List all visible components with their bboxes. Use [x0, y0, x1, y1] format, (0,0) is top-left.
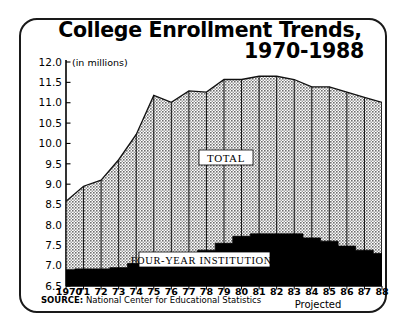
y-tick-label: 10.5: [39, 117, 62, 129]
y-axis-tick-labels: 6.57.07.58.08.59.09.510.010.511.011.512.…: [39, 56, 62, 292]
y-tick-label: 12.0: [39, 56, 62, 68]
projected-label: Projected: [295, 299, 342, 310]
y-tick-label: 8.0: [45, 219, 62, 231]
y-tick-label: 11.0: [39, 96, 62, 108]
chart-canvas: 6.57.07.58.08.59.09.510.010.511.011.512.…: [0, 0, 408, 329]
y-tick-label: 9.5: [45, 158, 62, 170]
y-tick-label: 10.0: [39, 137, 62, 149]
y-tick-label: 7.5: [45, 239, 62, 251]
units-note: (in millions): [72, 57, 128, 68]
four-year-series-label: FOUR-YEAR INSTITUTIONS: [131, 252, 279, 267]
y-tick-label: 9.0: [45, 178, 62, 190]
y-tick-label: 8.5: [45, 198, 62, 210]
enrollment-area-chart: 6.57.07.58.08.59.09.510.010.511.011.512.…: [0, 0, 408, 329]
total-label-text: TOTAL: [207, 152, 245, 164]
y-tick-label: 7.0: [45, 259, 62, 271]
total-series-label: TOTAL: [199, 150, 253, 165]
y-tick-label: 11.5: [39, 76, 62, 88]
four-year-label-text: FOUR-YEAR INSTITUTIONS: [131, 255, 279, 266]
source-note: SOURCE: National Center for Educational …: [41, 295, 262, 305]
